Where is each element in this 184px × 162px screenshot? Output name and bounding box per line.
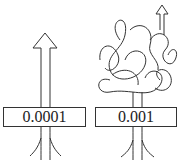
tangled-tree-icon [99,5,177,160]
value-box-right: 0.001 [95,107,177,127]
diagram-canvas [0,0,184,162]
value-box-left: 0.0001 [3,107,86,127]
straight-arrow-icon [30,33,61,160]
